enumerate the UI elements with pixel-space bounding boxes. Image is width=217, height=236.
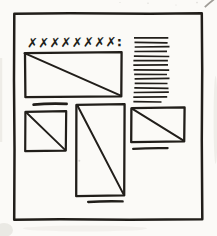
layout-sketch: ✗✗✗✗✗✗✗✗:: [0, 0, 217, 236]
caption-rule-feature: [34, 104, 67, 105]
text-line: [135, 42, 168, 43]
ink-speck: [78, 160, 80, 162]
text-block: [133, 38, 169, 102]
caption-rule-center: [88, 201, 122, 202]
caption-rule-right: [133, 148, 167, 149]
headline-placeholder: ✗✗✗✗✗✗✗✗:: [27, 34, 122, 50]
layout-sketch-page: ✗✗✗✗✗✗✗✗:: [0, 0, 217, 236]
